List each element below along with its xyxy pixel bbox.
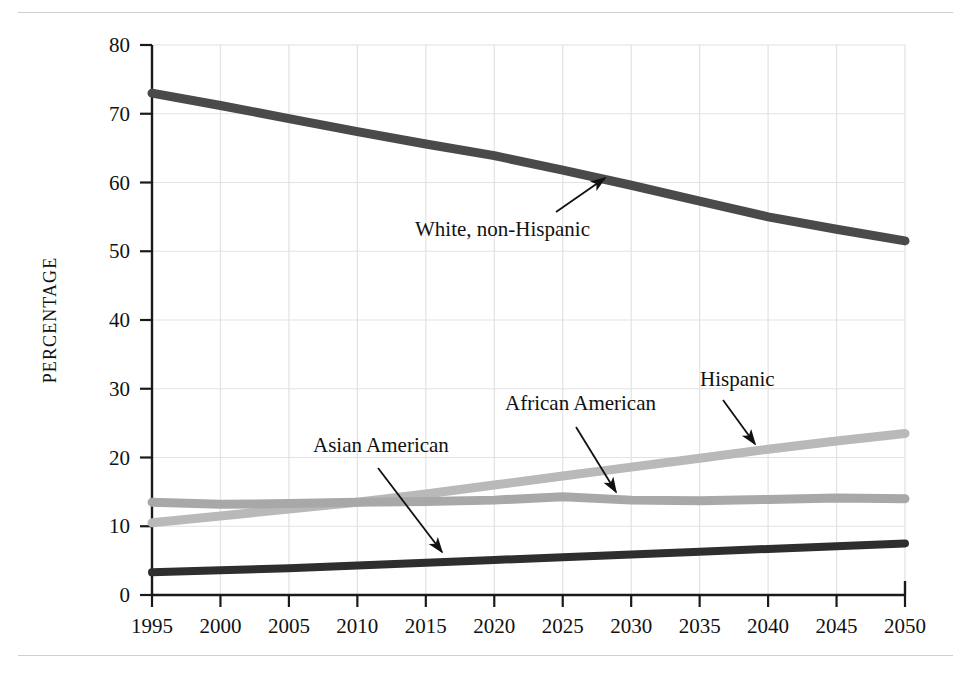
y-tick-label: 0 [120, 583, 131, 607]
x-tick-label: 2010 [336, 614, 378, 638]
x-tick-label: 2005 [268, 614, 310, 638]
y-axis-title: PERCENTAGE [40, 257, 60, 384]
x-axis-tick-labels: 1995200020052010201520202025203020352040… [131, 614, 926, 638]
x-tick-label: 2045 [816, 614, 858, 638]
x-tick-label: 2040 [747, 614, 789, 638]
y-tick-label: 50 [109, 239, 130, 263]
chart-figure: 01020304050607080 1995200020052010201520… [0, 0, 969, 677]
y-tick-label: 60 [109, 171, 130, 195]
x-tick-label: 2000 [199, 614, 241, 638]
x-tick-label: 2025 [542, 614, 584, 638]
x-tick-label: 2035 [679, 614, 721, 638]
x-tick-label: 1995 [131, 614, 173, 638]
x-tick-label: 2015 [405, 614, 447, 638]
tick-marks [140, 45, 905, 607]
annotation-label-white-non-hispanic: White, non-Hispanic [415, 217, 590, 241]
series-line [152, 433, 905, 522]
data-series-group [152, 93, 905, 572]
annotation-arrow-white-non-hispanic [556, 178, 605, 212]
x-tick-label: 2020 [473, 614, 515, 638]
annotation-label-hispanic: Hispanic [700, 367, 775, 391]
line-chart: 01020304050607080 1995200020052010201520… [0, 0, 969, 677]
annotation-arrow-asian-american [378, 468, 442, 552]
x-tick-label: 2030 [610, 614, 652, 638]
y-tick-label: 40 [109, 308, 130, 332]
top-divider-rule [18, 12, 953, 13]
y-tick-label: 30 [109, 377, 130, 401]
annotation-label-african-american: African American [505, 391, 657, 415]
y-tick-label: 20 [109, 446, 130, 470]
y-tick-label: 70 [109, 102, 130, 126]
y-tick-label: 10 [109, 514, 130, 538]
y-tick-label: 80 [109, 33, 130, 57]
annotation-arrow-african-american [576, 427, 616, 492]
y-axis-tick-labels: 01020304050607080 [109, 33, 130, 607]
series-line [152, 543, 905, 572]
annotation-label-asian-american: Asian American [313, 433, 449, 457]
bottom-divider-rule [18, 655, 953, 656]
annotation-arrow-hispanic [723, 400, 755, 444]
series-line [152, 497, 905, 505]
x-tick-label: 2050 [884, 614, 926, 638]
